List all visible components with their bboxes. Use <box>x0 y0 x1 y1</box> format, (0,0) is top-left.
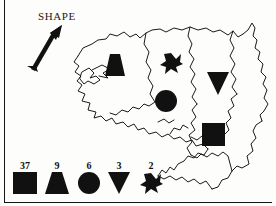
circle-symbol-icon <box>155 90 177 116</box>
legend-count-trapezoid: 9 <box>40 160 74 171</box>
trapezoid-symbol-icon <box>105 54 125 80</box>
square-symbol-icon <box>202 123 225 150</box>
legend-item-square: 37 <box>8 160 42 194</box>
legend-item-circle: 6 <box>72 160 106 194</box>
triangle-down-symbol-icon <box>102 172 136 194</box>
circle-symbol-icon <box>72 172 106 194</box>
cross-symbol-icon <box>159 51 183 79</box>
legend-count-circle: 6 <box>72 160 106 171</box>
square-symbol-icon <box>8 172 42 194</box>
cross-symbol-icon <box>134 172 168 194</box>
map-figure: SHAPE <box>0 0 276 206</box>
legend-count-triangle-down: 3 <box>102 160 136 171</box>
frame-left-rule <box>4 0 5 203</box>
legend-item-triangle-down: 3 <box>102 160 136 194</box>
legend-count-square: 37 <box>8 160 42 171</box>
trapezoid-symbol-icon <box>40 172 74 194</box>
legend-count-cross: 2 <box>134 160 168 171</box>
legend-item-cross: 2 <box>134 160 168 194</box>
triangle-down-symbol-icon <box>207 72 229 99</box>
legend-item-trapezoid: 9 <box>40 160 74 194</box>
legend: 37 9 6 3 2 <box>8 160 158 202</box>
north-arrow-icon <box>26 24 66 74</box>
frame-bottom-rule <box>4 202 272 203</box>
